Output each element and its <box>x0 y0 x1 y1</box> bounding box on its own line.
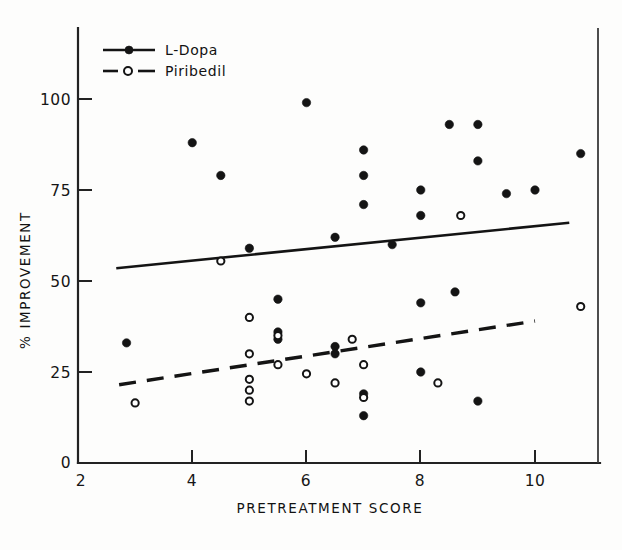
y-ticklabel-75: 75 <box>50 182 71 200</box>
data-point-piribedil <box>132 399 139 406</box>
legend: L-Dopa Piribedil <box>103 42 226 79</box>
data-point-l-dopa <box>359 200 367 208</box>
data-point-l-dopa <box>451 288 459 296</box>
data-point-l-dopa <box>417 211 425 219</box>
data-point-l-dopa <box>359 411 367 419</box>
data-point-l-dopa <box>122 339 130 347</box>
data-point-l-dopa <box>359 146 367 154</box>
x-ticklabel-2: 2 <box>76 472 86 490</box>
trend-lines-layer <box>116 223 569 385</box>
data-point-l-dopa <box>188 138 196 146</box>
x-axis-title: PRETREATMENT SCORE <box>237 500 424 516</box>
y-ticklabel-25: 25 <box>50 364 71 382</box>
data-point-piribedil <box>246 398 253 405</box>
data-point-piribedil <box>360 361 367 368</box>
data-point-piribedil <box>274 361 281 368</box>
data-point-l-dopa <box>359 171 367 179</box>
data-point-piribedil <box>360 394 367 401</box>
y-ticklabel-0: 0 <box>61 454 71 472</box>
y-ticklabel-100: 100 <box>40 91 71 109</box>
y-axis-ticks <box>78 99 92 372</box>
data-point-piribedil <box>303 370 310 377</box>
data-point-piribedil <box>217 257 224 264</box>
data-point-piribedil <box>274 332 281 339</box>
data-point-piribedil <box>246 376 253 383</box>
data-point-l-dopa <box>474 120 482 128</box>
legend-label-piribedil: Piribedil <box>165 63 226 79</box>
legend-marker-l-dopa <box>125 46 133 54</box>
data-point-l-dopa <box>302 98 310 106</box>
data-point-l-dopa <box>577 149 585 157</box>
x-ticklabel-8: 8 <box>415 472 425 490</box>
data-point-piribedil <box>457 212 464 219</box>
data-point-l-dopa <box>331 233 339 241</box>
data-point-l-dopa <box>217 171 225 179</box>
x-axis-ticks <box>192 450 535 463</box>
data-point-l-dopa <box>245 244 253 252</box>
plot-canvas: 100 75 50 25 0 2 4 6 8 10 PRETREATMENT S… <box>0 0 622 550</box>
data-points-layer <box>122 98 585 419</box>
data-point-piribedil <box>246 387 253 394</box>
y-ticklabel-50: 50 <box>50 273 71 291</box>
data-point-piribedil <box>331 379 338 386</box>
x-ticklabel-4: 4 <box>187 472 197 490</box>
trend-line-piribedil <box>119 321 535 385</box>
data-point-l-dopa <box>388 240 396 248</box>
data-point-l-dopa <box>417 368 425 376</box>
data-point-l-dopa <box>502 189 510 197</box>
data-point-piribedil <box>349 336 356 343</box>
data-point-l-dopa <box>331 350 339 358</box>
trend-line-l-dopa <box>116 223 569 269</box>
figure-scatter-plot: 100 75 50 25 0 2 4 6 8 10 PRETREATMENT S… <box>0 0 622 550</box>
data-point-l-dopa <box>417 299 425 307</box>
data-point-piribedil <box>577 303 584 310</box>
data-point-piribedil <box>246 314 253 321</box>
legend-label-l-dopa: L-Dopa <box>165 42 218 58</box>
data-point-piribedil <box>246 350 253 357</box>
data-point-piribedil <box>434 379 441 386</box>
data-point-l-dopa <box>474 157 482 165</box>
data-point-l-dopa <box>417 186 425 194</box>
x-ticklabel-10: 10 <box>525 472 546 490</box>
data-point-l-dopa <box>445 120 453 128</box>
y-axis-title: % IMPROVEMENT <box>17 211 33 349</box>
data-point-l-dopa <box>274 295 282 303</box>
data-point-l-dopa <box>531 186 539 194</box>
legend-marker-piribedil <box>124 67 132 75</box>
x-ticklabel-6: 6 <box>301 472 311 490</box>
data-point-l-dopa <box>474 397 482 405</box>
